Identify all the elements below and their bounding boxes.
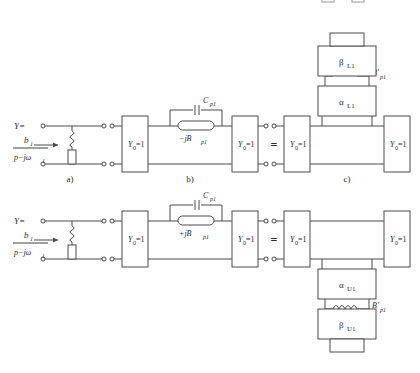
formula-denominator-sub: 1 bbox=[42, 158, 45, 164]
terminal-dot bbox=[264, 257, 268, 261]
coil-sub: p1 bbox=[379, 307, 386, 313]
terminal-dot bbox=[110, 257, 114, 261]
susceptance-element bbox=[178, 216, 214, 225]
terminal-dot bbox=[272, 162, 276, 166]
alpha-stub-box bbox=[318, 86, 376, 116]
lower-source-arrow bbox=[34, 237, 58, 242]
cropped-top-artifact bbox=[322, 0, 364, 2]
alpha-label: α bbox=[339, 97, 344, 107]
capacitor-label: C bbox=[203, 96, 209, 105]
upper-section-b: Y 0 =1 C p1 −jB p1 bbox=[122, 96, 276, 184]
upper-source-network: Y= b 1 p−jω 1 a) bbox=[13, 121, 122, 184]
formula-Y-label: Y= bbox=[14, 216, 25, 226]
panel-label-b: b) bbox=[186, 174, 194, 184]
beta-sub: L1 bbox=[347, 62, 355, 70]
upper-source-arrow bbox=[34, 142, 58, 147]
beta-stub-box bbox=[318, 309, 376, 339]
terminal-dot bbox=[102, 124, 106, 128]
terminal-dot bbox=[264, 162, 268, 166]
formula-Y-label: Y= bbox=[14, 121, 25, 131]
terminal-dot bbox=[110, 124, 114, 128]
terminal-dot bbox=[264, 219, 268, 223]
capacitor-sub: p1 bbox=[209, 101, 216, 107]
upper-section-c: Y 0 =1 Y 0 =1 α L1 bbox=[276, 33, 410, 184]
susceptance-label: +jB bbox=[179, 229, 192, 238]
formula-numerator-sub: 1 bbox=[30, 141, 33, 147]
formula-denominator: p−jω bbox=[13, 153, 32, 162]
alpha-sub: L1 bbox=[347, 102, 355, 110]
capacitor-label: C bbox=[203, 191, 209, 200]
shunt-inductor-icon bbox=[70, 221, 74, 245]
panel-label-a: a) bbox=[67, 174, 74, 184]
lower-source-network: Y= b 1 p−jω 1 bbox=[13, 216, 122, 261]
susceptance-label: −jB bbox=[179, 134, 192, 143]
susceptance-element bbox=[178, 121, 214, 130]
terminal-dot bbox=[272, 124, 276, 128]
figure-canvas: Y= b 1 p−jω 1 a) Y 0 =1 bbox=[0, 0, 420, 373]
formula-numerator: b bbox=[24, 230, 29, 240]
coil-sub: p1 bbox=[379, 74, 386, 80]
y0-box-value: =1 bbox=[298, 140, 307, 149]
y0-box-value: =1 bbox=[136, 140, 145, 149]
shunt-resistor-icon bbox=[68, 150, 76, 164]
equals-sign: = bbox=[271, 233, 278, 247]
lower-section-b: Y 0 =1 C p1 +jB p1 Y 0 =1 bbox=[122, 191, 276, 267]
y0-box-value: =1 bbox=[246, 140, 255, 149]
y0-box-value: =1 bbox=[398, 235, 407, 244]
terminal-dot bbox=[102, 162, 106, 166]
terminal-dot bbox=[41, 219, 45, 223]
formula-denominator: p−jω bbox=[13, 248, 32, 257]
row-upper: Y= b 1 p−jω 1 a) Y 0 =1 bbox=[13, 33, 410, 184]
alpha-label: α bbox=[339, 280, 344, 290]
lower-section-c: Y 0 =1 Y 0 =1 α U1 B′ bbox=[276, 211, 410, 352]
shunt-inductor-icon bbox=[70, 126, 74, 150]
circuit-diagram-svg: Y= b 1 p−jω 1 a) Y 0 =1 bbox=[0, 0, 420, 373]
capacitor-sub: p1 bbox=[209, 196, 216, 202]
terminal-dot bbox=[272, 257, 276, 261]
panel-label-c: c) bbox=[344, 174, 351, 184]
terminal-dot bbox=[41, 124, 45, 128]
stub-end-cap bbox=[330, 339, 364, 352]
y0-box-value: =1 bbox=[398, 140, 407, 149]
alpha-sub: U1 bbox=[347, 285, 356, 293]
formula-numerator-sub: 1 bbox=[30, 236, 33, 242]
beta-label: β bbox=[339, 320, 344, 330]
beta-stub-box bbox=[318, 46, 376, 76]
terminal-dot bbox=[102, 219, 106, 223]
alpha-stub-box bbox=[318, 269, 376, 299]
stub-end-cap bbox=[330, 33, 364, 46]
y0-box-value: =1 bbox=[298, 235, 307, 244]
formula-denominator-sub: 1 bbox=[42, 253, 45, 259]
beta-label: β bbox=[339, 57, 344, 67]
y0-box-value: =1 bbox=[246, 235, 255, 244]
terminal-dot bbox=[110, 219, 114, 223]
equals-sign: = bbox=[271, 138, 278, 152]
terminal-dot bbox=[264, 124, 268, 128]
shunt-resistor-icon bbox=[68, 245, 76, 259]
terminal-dot bbox=[272, 219, 276, 223]
susceptance-sub: p1 bbox=[200, 139, 207, 145]
terminal-dot bbox=[102, 257, 106, 261]
formula-numerator: b bbox=[24, 135, 29, 145]
terminal-dot bbox=[110, 162, 114, 166]
beta-sub: U1 bbox=[347, 325, 356, 333]
y0-box-value: =1 bbox=[136, 235, 145, 244]
susceptance-sub: p1 bbox=[202, 234, 209, 240]
row-lower: Y= b 1 p−jω 1 Y 0 =1 C bbox=[13, 191, 410, 352]
